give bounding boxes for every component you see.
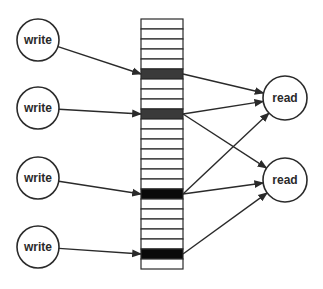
memory-cell — [141, 259, 183, 269]
memory-cell-highlighted — [141, 109, 183, 119]
memory-cell — [141, 89, 183, 99]
memory-array — [141, 19, 183, 269]
arrow-row-9-to-read-1 — [183, 114, 267, 168]
write-node: write — [17, 157, 59, 199]
memory-cell — [141, 219, 183, 229]
read-nodes: readread — [263, 76, 307, 202]
memory-cell-highlighted — [141, 69, 183, 79]
write-node-label: write — [23, 171, 52, 185]
read-node-label: read — [272, 173, 297, 187]
read-node-label: read — [272, 91, 297, 105]
arrow-write-0-to-row-5 — [58, 47, 141, 74]
read-node: read — [263, 76, 307, 120]
memory-cell — [141, 99, 183, 109]
arrow-write-3-to-row-23 — [59, 248, 141, 254]
memory-cell — [141, 159, 183, 169]
memory-cell — [141, 139, 183, 149]
memory-cell — [141, 179, 183, 189]
arrow-row-17-to-read-0 — [183, 113, 269, 194]
memory-cell — [141, 19, 183, 29]
memory-cell — [141, 49, 183, 59]
write-node-label: write — [23, 240, 52, 254]
memory-cell — [141, 199, 183, 209]
memory-cell — [141, 129, 183, 139]
write-node-label: write — [23, 101, 52, 115]
diagram-canvas: writewritewritewrite readread — [0, 0, 323, 289]
arrow-row-5-to-read-0 — [183, 74, 264, 93]
memory-cell — [141, 169, 183, 179]
write-node: write — [17, 87, 59, 129]
memory-cell — [141, 229, 183, 239]
memory-cell — [141, 29, 183, 39]
arrow-write-2-to-row-17 — [59, 181, 141, 194]
memory-cell-highlighted — [141, 249, 183, 259]
arrow-row-17-to-read-1 — [183, 183, 263, 194]
arrow-row-9-to-read-0 — [183, 101, 263, 114]
memory-cell — [141, 39, 183, 49]
memory-cell — [141, 239, 183, 249]
write-nodes: writewritewritewrite — [17, 19, 59, 268]
memory-cell-highlighted — [141, 189, 183, 199]
read-node: read — [263, 158, 307, 202]
write-node: write — [17, 226, 59, 268]
write-node-label: write — [23, 33, 52, 47]
write-node: write — [17, 19, 59, 61]
arrow-write-1-to-row-9 — [59, 109, 141, 114]
memory-cell — [141, 59, 183, 69]
arrow-row-23-to-read-1 — [183, 193, 267, 254]
memory-cell — [141, 149, 183, 159]
memory-cell — [141, 209, 183, 219]
memory-cell — [141, 119, 183, 129]
memory-cell — [141, 79, 183, 89]
